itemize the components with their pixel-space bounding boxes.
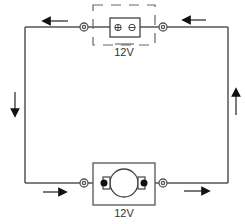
motor (93, 163, 155, 205)
battery (93, 5, 155, 45)
terminal-battery-right (159, 23, 167, 31)
terminal-motor-left (80, 179, 88, 187)
circuit-diagram: 12V 12V (0, 0, 245, 224)
motor-rotor (110, 169, 138, 197)
circuit-svg (0, 0, 245, 224)
motor-voltage-label: 12V (104, 207, 144, 219)
battery-positive-icon (115, 24, 121, 30)
battery-voltage-label: 12V (104, 46, 144, 58)
terminal-battery-left (80, 23, 88, 31)
terminal-motor-right (159, 179, 167, 187)
